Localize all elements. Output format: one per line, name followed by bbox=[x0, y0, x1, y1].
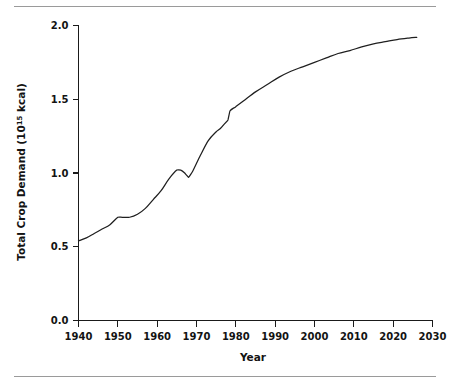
x-tick-label: 1960 bbox=[143, 331, 171, 342]
y-tick-label: 2.0 bbox=[51, 20, 69, 31]
y-axis-ticks: 0.00.51.01.52.0 bbox=[51, 20, 79, 326]
x-tick-label: 1990 bbox=[261, 331, 289, 342]
x-tick-label: 1980 bbox=[222, 331, 250, 342]
total-crop-demand-line bbox=[79, 37, 417, 241]
x-tick-label: 1950 bbox=[104, 331, 132, 342]
plot-canvas: 0.00.51.01.52.0 194019501960197019801990… bbox=[0, 0, 450, 387]
y-axis-title: Total Crop Demand (1015 kcal) bbox=[15, 83, 27, 261]
y-tick-label: 0.5 bbox=[51, 241, 69, 252]
x-tick-label: 1940 bbox=[65, 331, 93, 342]
axes-group bbox=[79, 26, 433, 321]
x-tick-label: 2000 bbox=[301, 331, 329, 342]
y-tick-label: 0.0 bbox=[51, 315, 69, 326]
x-tick-label: 1970 bbox=[183, 331, 211, 342]
x-tick-label: 2010 bbox=[340, 331, 368, 342]
x-tick-label: 2020 bbox=[379, 331, 407, 342]
y-tick-label: 1.5 bbox=[51, 94, 69, 105]
x-tick-label: 2030 bbox=[419, 331, 447, 342]
chart-figure: 0.00.51.01.52.0 194019501960197019801990… bbox=[0, 0, 450, 387]
y-tick-label: 1.0 bbox=[51, 168, 69, 179]
x-axis-ticks: 1940195019601970198019902000201020202030 bbox=[65, 321, 447, 342]
x-axis-title: Year bbox=[239, 351, 267, 363]
data-series-group bbox=[79, 37, 417, 241]
